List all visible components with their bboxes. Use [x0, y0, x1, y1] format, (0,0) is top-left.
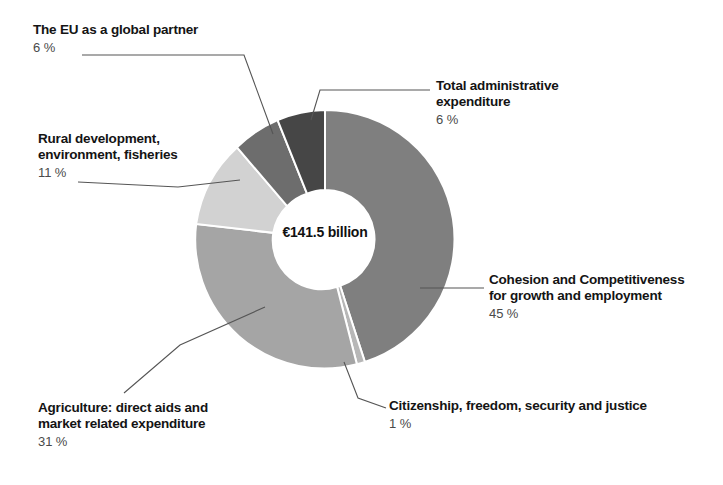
callout-rural[interactable]: Rural development, environment, fisherie…	[38, 131, 253, 181]
callout-agriculture[interactable]: Agriculture: direct aids and market rela…	[38, 400, 288, 450]
leader-line-citizenship	[344, 362, 386, 408]
callout-cohesion-value: 45 %	[489, 305, 719, 322]
callout-citizenship-title: Citizenship, freedom, security and justi…	[389, 398, 719, 414]
callout-admin-title: Total administrative expenditure	[436, 78, 666, 110]
donut-center-label: €141.5 billion	[255, 224, 395, 240]
callout-cohesion-title: Cohesion and Competitiveness for growth …	[489, 272, 719, 304]
callout-admin[interactable]: Total administrative expenditure 6 %	[436, 78, 666, 128]
callout-rural-value: 11 %	[38, 164, 253, 181]
callout-admin-value: 6 %	[436, 111, 666, 128]
chart-canvas: €141.5 billion The EU as a global partne…	[0, 0, 723, 485]
slice-agriculture[interactable]	[195, 224, 357, 369]
callout-global-partner-title: The EU as a global partner	[33, 22, 283, 38]
callout-global-partner[interactable]: The EU as a global partner 6 %	[33, 22, 283, 56]
callout-agriculture-value: 31 %	[38, 433, 288, 450]
leader-line-global-partner	[82, 55, 273, 134]
callout-cohesion[interactable]: Cohesion and Competitiveness for growth …	[489, 272, 719, 322]
callout-global-partner-value: 6 %	[33, 39, 283, 56]
callout-citizenship-value: 1 %	[389, 415, 719, 432]
callout-rural-title: Rural development, environment, fisherie…	[38, 131, 253, 163]
callout-citizenship[interactable]: Citizenship, freedom, security and justi…	[389, 398, 719, 432]
callout-agriculture-title: Agriculture: direct aids and market rela…	[38, 400, 288, 432]
